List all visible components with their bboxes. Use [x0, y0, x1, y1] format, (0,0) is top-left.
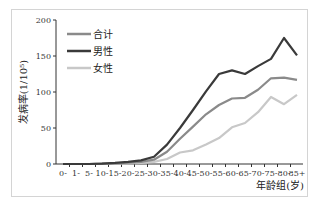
x-tick-label: 55- — [213, 169, 226, 178]
x-tick-label: 5- — [85, 169, 93, 178]
x-tick-label: 40- — [174, 169, 187, 178]
legend: 合计男性女性 — [67, 28, 113, 74]
x-tick-label: 75- — [265, 169, 278, 178]
series-line — [63, 78, 297, 164]
y-axis: 050100150200 — [36, 16, 56, 169]
x-tick-label: 30- — [148, 169, 161, 178]
x-tick-label: 0- — [59, 169, 67, 178]
x-tick-label: 35- — [161, 169, 174, 178]
x-tick-label: 1- — [72, 169, 80, 178]
line-chart: 050100150200 0-1-5-10-15-20-25-30-35-40-… — [0, 0, 317, 207]
legend-label: 合计 — [93, 28, 113, 40]
x-tick-label: 25- — [135, 169, 148, 178]
x-tick-label: 10- — [96, 169, 109, 178]
x-axis: 0-1-5-10-15-20-25-30-35-40-45-50-55-60-6… — [56, 164, 305, 178]
y-axis-title: 发病率(1/10⁵) — [17, 60, 29, 124]
y-tick-label: 0 — [46, 160, 51, 169]
x-tick-label: 70- — [252, 169, 265, 178]
x-tick-label: 85+ — [289, 169, 306, 178]
y-tick-label: 100 — [36, 88, 51, 97]
x-tick-label: 15- — [109, 169, 122, 178]
x-tick-label: 50- — [200, 169, 213, 178]
x-tick-label: 60- — [226, 169, 239, 178]
y-tick-label: 150 — [36, 52, 51, 61]
x-axis-title: 年龄组(岁) — [256, 179, 304, 191]
y-tick-label: 200 — [36, 16, 51, 25]
x-tick-label: 45- — [187, 169, 200, 178]
y-tick-label: 50 — [41, 124, 51, 133]
legend-label: 男性 — [93, 45, 113, 57]
x-tick-label: 20- — [122, 169, 135, 178]
x-tick-label: 65- — [239, 169, 252, 178]
legend-label: 女性 — [93, 62, 113, 74]
